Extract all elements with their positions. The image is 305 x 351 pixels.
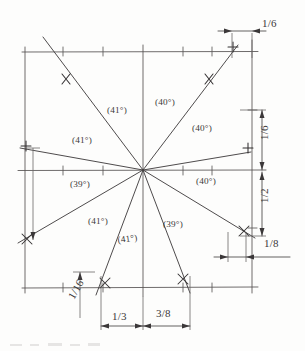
dim-label-right-upper: 1/6 — [258, 125, 270, 140]
arrow-1-16 — [78, 272, 83, 280]
ray-lower-right-steep — [143, 170, 190, 293]
arrow-top-right-right — [252, 29, 260, 34]
angle-label-upper-left-outer: (41°) — [72, 135, 92, 145]
dim-label-bottom-right: 3/8 — [156, 307, 171, 319]
dim-label-top-right: 1/6 — [262, 17, 277, 29]
marker-plus-top-right — [228, 42, 238, 52]
dimension-bottom-span: 1/3 3/8 — [101, 276, 190, 330]
arrow-3-8-left — [143, 324, 151, 329]
smudge-mark-4 — [70, 344, 80, 346]
crossing-markers — [21, 42, 253, 288]
ray-upper-right-shallow — [143, 152, 251, 170]
dimension-bottom-left: 1/16 — [65, 272, 95, 318]
frame-line-bottom — [22, 287, 258, 288]
arrow-right-lower-bottom — [260, 228, 265, 236]
scan-smudge — [10, 343, 100, 346]
arrow-1-3-right — [135, 324, 143, 329]
arrow-1-3-left — [101, 324, 109, 329]
arrow-3-8-right — [182, 324, 190, 329]
dim-label-right-bottom: 1/8 — [264, 237, 279, 249]
arrow-left-bracket-bottom — [31, 232, 36, 240]
marker-x-lower-left — [22, 234, 32, 244]
angle-label-lower-right-inner: (39°) — [163, 219, 183, 229]
arrow-1-8-right — [246, 255, 254, 260]
smudge-mark-2 — [30, 344, 39, 346]
dim-label-bottom-mid: 1/3 — [112, 310, 127, 322]
marker-x-lower-right — [239, 226, 249, 236]
marker-x-bottom-left — [100, 278, 110, 288]
ray-upper-left-shallow — [20, 148, 143, 170]
dimension-right-vertical: 1/6 1/2 — [240, 110, 270, 236]
arrow-right-lower-top — [260, 172, 265, 180]
arrow-top-right-left — [224, 29, 232, 34]
marker-plus-right-upper — [243, 143, 253, 153]
sketch-canvas: 1/6 1/6 1/2 1/8 — [0, 0, 305, 351]
ray-upper-left-steep — [43, 37, 143, 170]
angle-label-lower-left-mid: (41°) — [88, 216, 108, 226]
angle-label-lower-left-inner: (41°) — [117, 232, 138, 245]
arrow-right-upper-bottom — [260, 162, 265, 170]
angle-label-lower-left-outer: (39°) — [70, 179, 90, 189]
smudge-mark-3 — [48, 343, 62, 346]
angle-label-lower-right-outer: (40°) — [196, 176, 216, 186]
dim-label-right-lower: 1/2 — [258, 188, 270, 203]
angle-label-upper-left-inner: (41°) — [107, 105, 127, 115]
sketch-page: 1/6 1/6 1/2 1/8 — [0, 0, 305, 351]
frame-line-top — [22, 52, 258, 53]
dimension-left-bracket — [26, 148, 40, 240]
smudge-mark-5 — [88, 343, 100, 346]
marker-x-upper-left — [62, 74, 70, 84]
ray-upper-right-steep — [143, 45, 238, 170]
angle-label-upper-right-outer: (40°) — [192, 123, 212, 133]
arrow-1-8-left — [220, 255, 228, 260]
angle-label-upper-right-inner: (40°) — [155, 97, 175, 107]
radiating-rays — [18, 37, 255, 295]
dim-label-bottom-left: 1/16 — [65, 277, 86, 301]
arrow-right-upper-top — [260, 110, 265, 118]
smudge-mark-1 — [10, 344, 22, 346]
